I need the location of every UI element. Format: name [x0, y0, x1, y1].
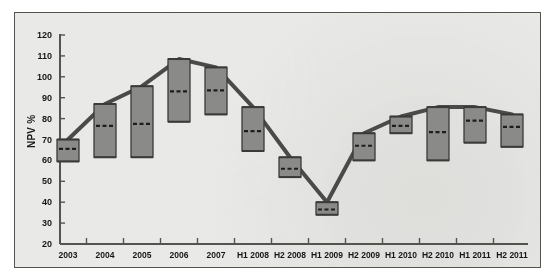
- x-axis-tick-label: H1 2011: [459, 250, 491, 260]
- range-bar: [501, 114, 523, 146]
- range-bar: [168, 59, 190, 122]
- x-axis-tick-label: H2 2008: [274, 250, 306, 260]
- axes-group: [60, 34, 528, 244]
- plot-area: [0, 0, 555, 280]
- x-axis-tick-label: 2003: [59, 250, 78, 260]
- x-axis-tick-label: 2007: [207, 250, 226, 260]
- range-bar: [131, 86, 153, 157]
- npv-range-chart: NPV % 2030405060708090100110120 20032004…: [0, 0, 555, 280]
- range-bar: [316, 202, 338, 215]
- x-axis-tick-label: 2006: [170, 250, 189, 260]
- range-bar: [353, 133, 375, 160]
- x-axis-tick-label: H2 2010: [422, 250, 454, 260]
- x-axis-tick-label: H1 2010: [385, 250, 417, 260]
- range-bar: [279, 157, 301, 177]
- x-axis-tick-label: H1 2008: [237, 250, 269, 260]
- x-axis-tick-label: 2004: [96, 250, 115, 260]
- range-bar: [390, 117, 412, 134]
- x-axis-tick-label: H2 2009: [348, 250, 380, 260]
- range-bars-group: [57, 59, 523, 215]
- x-axis-tick-label: H1 2009: [311, 250, 343, 260]
- range-bar: [94, 104, 116, 157]
- x-axis-tick-label: 2005: [133, 250, 152, 260]
- range-bar: [464, 107, 486, 143]
- range-bar: [242, 107, 264, 151]
- range-bar: [427, 107, 449, 160]
- range-bar: [205, 67, 227, 114]
- range-bar: [57, 140, 79, 162]
- x-axis-tick-label: H2 2011: [496, 250, 528, 260]
